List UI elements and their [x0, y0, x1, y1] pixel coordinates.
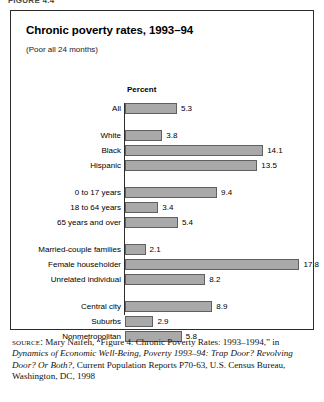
chart-subtitle: (Poor all 24 months) [26, 45, 98, 54]
bar [125, 130, 162, 141]
bar-track [125, 259, 299, 270]
bar-row: Hispanic13.5 [11, 160, 315, 171]
bar [125, 145, 263, 156]
bar [125, 244, 146, 255]
bar [125, 259, 299, 270]
bar-category-label: 18 to 64 years [13, 202, 121, 213]
bar-track [125, 301, 212, 312]
bar [125, 202, 158, 213]
bar-row: 65 years and over5.4 [11, 217, 315, 228]
chart-title: Chronic poverty rates, 1993–94 [26, 24, 193, 36]
bar-row: 0 to 17 years9.4 [11, 187, 315, 198]
bar-category-label: Married-couple families [13, 244, 121, 255]
bar-value-label: 2.1 [150, 244, 161, 255]
bar-row: Female householder17.8 [11, 259, 315, 270]
source-text-part1: Mary Naifeh, “Figure 4. Chronic Poverty … [43, 337, 279, 347]
source-label: source: [12, 336, 43, 347]
plot-area: All5.3White3.8Black14.1Hispanic13.50 to … [11, 101, 315, 326]
bar-category-label: Black [13, 145, 121, 156]
bar-value-label: 13.5 [261, 160, 277, 171]
figure-box: Chronic poverty rates, 1993–94 (Poor all… [10, 10, 314, 330]
bar-row: Unrelated individual8.2 [11, 274, 315, 285]
bar-category-label: Central city [13, 301, 121, 312]
bar-row: Married-couple families2.1 [11, 244, 315, 255]
bar [125, 160, 257, 171]
bar-track [125, 103, 177, 114]
bar-track [125, 316, 153, 327]
bar-value-label: 14.1 [267, 145, 283, 156]
bar [125, 217, 178, 228]
bar-track [125, 202, 158, 213]
bar-category-label: All [13, 103, 121, 114]
bar-track [125, 187, 217, 198]
bar-track [125, 274, 205, 285]
bar-category-label: 0 to 17 years [13, 187, 121, 198]
bar-row: Black14.1 [11, 145, 315, 156]
bar [125, 274, 205, 285]
bar [125, 316, 153, 327]
bar-row: All5.3 [11, 103, 315, 114]
bar-category-label: Hispanic [13, 160, 121, 171]
bar [125, 103, 177, 114]
bar-value-label: 3.4 [162, 202, 173, 213]
bar-category-label: Female householder [13, 259, 121, 270]
bar-value-label: 3.8 [166, 130, 177, 141]
figure-caption-stub: FIGURE 4.4 [8, 0, 128, 5]
source-note: source: Mary Naifeh, “Figure 4. Chronic … [12, 336, 316, 383]
bar-value-label: 2.9 [157, 316, 168, 327]
bar-value-label: 8.2 [209, 274, 220, 285]
bar-category-label: White [13, 130, 121, 141]
bar-track [125, 130, 162, 141]
bar-value-label: 17.8 [303, 259, 319, 270]
bar-track [125, 145, 263, 156]
bar-value-label: 9.4 [221, 187, 232, 198]
bar-track [125, 160, 257, 171]
bar-row: Suburbs2.9 [11, 316, 315, 327]
bar-track [125, 244, 146, 255]
bar-category-label: 65 years and over [13, 217, 121, 228]
bar-row: 18 to 64 years3.4 [11, 202, 315, 213]
bar [125, 301, 212, 312]
bar-value-label: 5.3 [181, 103, 192, 114]
bar-row: Central city8.9 [11, 301, 315, 312]
bar-category-label: Suburbs [13, 316, 121, 327]
bar-row: White3.8 [11, 130, 315, 141]
bar-value-label: 5.4 [182, 217, 193, 228]
bar-category-label: Unrelated individual [13, 274, 121, 285]
bar [125, 187, 217, 198]
bar-track [125, 217, 178, 228]
x-axis-title: Percent [127, 85, 156, 94]
bar-value-label: 8.9 [216, 301, 227, 312]
